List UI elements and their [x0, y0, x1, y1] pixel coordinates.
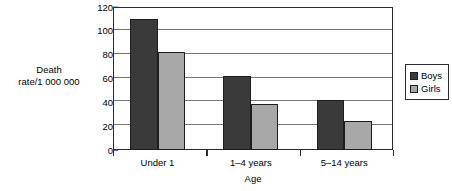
y-tick-label: 60: [87, 74, 113, 84]
y-axis-title: Death rate/1 000 000: [2, 64, 96, 88]
y-tick-label: 20: [87, 121, 113, 131]
x-tickmark: [113, 150, 114, 156]
gridline: [114, 124, 392, 125]
legend-swatch-icon: [410, 72, 418, 80]
y-tick-label: 80: [87, 50, 113, 60]
y-tick-label: 100: [87, 26, 113, 36]
gridline: [114, 100, 392, 101]
legend-item-girls: Girls: [410, 82, 445, 95]
x-category-label: 5–14 years: [321, 157, 368, 169]
legend-swatch-icon: [410, 85, 418, 93]
x-category-label: 1–4 years: [230, 157, 272, 169]
y-tick-label: 120: [87, 2, 113, 12]
x-tickmark: [300, 150, 301, 156]
x-tickmark: [206, 150, 207, 156]
x-axis-title: Age: [113, 173, 393, 184]
plot-area: [113, 7, 393, 150]
y-tick-label: 40: [87, 98, 113, 108]
y-axis-title-line-1: Death: [2, 64, 96, 76]
gridline: [114, 29, 392, 30]
bar-chart: Death rate/1 000 000 020406080100120 Und…: [0, 0, 452, 191]
y-tick-label: 0: [87, 145, 113, 155]
gridline: [114, 53, 392, 54]
gridline: [114, 77, 392, 78]
x-category-label: Under 1: [141, 157, 175, 169]
y-axis-title-line-2: rate/1 000 000: [2, 76, 96, 88]
legend-label: Girls: [421, 84, 441, 94]
y-axis: 020406080100120: [83, 7, 113, 150]
chart-legend: BoysGirls: [405, 64, 449, 100]
legend-label: Boys: [421, 71, 442, 81]
x-tickmark: [393, 150, 394, 156]
legend-item-boys: Boys: [410, 69, 445, 82]
